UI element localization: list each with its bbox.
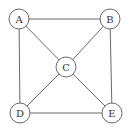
node-b: B [100, 9, 120, 29]
nodes-group: ABCDE [9, 9, 122, 123]
node-e: E [102, 103, 122, 123]
node-label: E [108, 108, 115, 119]
node-a: A [9, 9, 29, 29]
edge-a-d [19, 19, 20, 113]
edge-b-e [110, 19, 112, 113]
node-c: C [56, 57, 76, 77]
node-label: B [106, 14, 113, 25]
node-label: A [14, 14, 23, 25]
graph-diagram: ABCDE [0, 0, 131, 131]
node-label: C [62, 62, 70, 73]
node-d: D [10, 103, 30, 123]
node-label: D [16, 108, 24, 119]
